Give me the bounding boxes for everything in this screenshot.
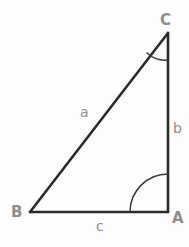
triangle-diagram: C A B a b c [0,0,189,247]
vertex-label-b: B [11,205,22,220]
side-a-line [30,33,168,212]
side-label-a: a [80,105,89,119]
side-label-b: b [173,121,182,135]
side-label-c: c [96,219,104,233]
triangle-canvas [0,0,189,247]
vertex-label-a: A [172,211,184,226]
vertex-label-c: C [160,13,171,28]
angle-arc-a [130,174,168,212]
